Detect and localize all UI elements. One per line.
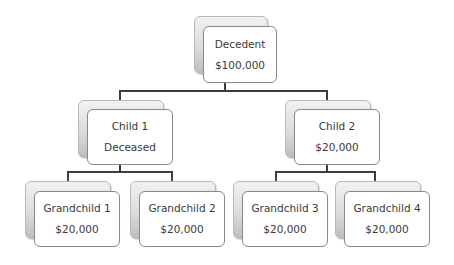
node-value: $100,000 [215, 55, 265, 76]
node-value: $20,000 [160, 219, 203, 240]
node-value: $20,000 [365, 219, 408, 240]
node-box: Grandchild 1 $20,000 [34, 191, 120, 247]
connector-child-1-horizontal [67, 171, 173, 173]
node-box: Decedent $100,000 [203, 26, 277, 83]
connector-child-2-up [326, 90, 328, 100]
node-box: Child 1 Deceased [87, 109, 173, 165]
node-label: Grandchild 2 [148, 198, 215, 219]
connector-children-horizontal [119, 90, 328, 92]
node-box: Grandchild 3 $20,000 [242, 191, 328, 247]
connector-grandchild-3-up [275, 171, 277, 181]
node-label: Decedent [215, 34, 266, 55]
node-label: Child 2 [319, 116, 356, 137]
node-value: $20,000 [315, 137, 358, 158]
node-label: Grandchild 3 [251, 198, 318, 219]
node-value: Deceased [104, 137, 156, 158]
connector-grandchild-2-up [171, 171, 173, 181]
connector-child-2-horizontal [275, 171, 376, 173]
connector-grandchild-1-up [67, 171, 69, 181]
connector-grandchild-4-up [374, 171, 376, 181]
node-label: Grandchild 4 [353, 198, 420, 219]
connector-child-1-up [119, 90, 121, 100]
node-value: $20,000 [55, 219, 98, 240]
node-box: Grandchild 4 $20,000 [344, 191, 430, 247]
node-box: Child 2 $20,000 [294, 109, 380, 165]
node-value: $20,000 [263, 219, 306, 240]
node-label: Child 1 [112, 116, 149, 137]
node-box: Grandchild 2 $20,000 [139, 191, 225, 247]
node-label: Grandchild 1 [43, 198, 110, 219]
